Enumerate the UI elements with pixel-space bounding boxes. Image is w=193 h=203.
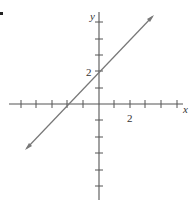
coordinate-plane: y x 2 2	[0, 0, 193, 203]
y-tick-label-2: 2	[86, 66, 92, 78]
corner-mark	[0, 12, 3, 15]
x-axis-label: x	[182, 103, 188, 115]
line-y-equals-x-plus-2	[27, 17, 152, 148]
y-axis-label: y	[89, 10, 95, 22]
x-tick-label-2: 2	[127, 112, 133, 124]
